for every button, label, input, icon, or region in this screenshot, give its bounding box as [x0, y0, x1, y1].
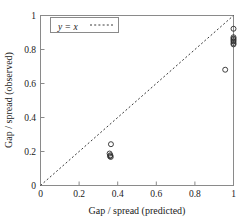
- identity-line-series: [41, 16, 234, 186]
- y-tick-label: 0.4: [24, 113, 36, 123]
- scatter-markers: [107, 26, 236, 159]
- y-tick-label: 0.6: [24, 79, 36, 89]
- x-tick-label: 0.4: [112, 189, 124, 199]
- y-tick-label: 1: [31, 11, 36, 21]
- data-point: [223, 67, 228, 72]
- y-axis-ticks: [41, 16, 45, 186]
- y-tick-label: 0.2: [24, 147, 36, 157]
- x-tick-label: 0.8: [189, 189, 201, 199]
- x-axis-ticks: [41, 182, 234, 186]
- x-tick-label: 1: [231, 189, 236, 199]
- chart-canvas: 0 0.2 0.4 0.6 0.8 1 0 0.2 0.4 0.6 0.8 1 …: [0, 0, 249, 224]
- y-tick-label: 0: [31, 181, 36, 191]
- x-tick-labels: 0 0.2 0.4 0.6 0.8 1: [38, 189, 236, 199]
- x-axis-title: Gap / spread (predicted): [89, 205, 186, 217]
- y-tick-label: 0.8: [24, 45, 36, 55]
- x-tick-label: 0.6: [150, 189, 162, 199]
- legend-label-identity: y = x: [57, 22, 78, 32]
- data-point: [108, 142, 113, 147]
- legend: y = x: [51, 18, 119, 33]
- scatter-chart-figure: 0 0.2 0.4 0.6 0.8 1 0 0.2 0.4 0.6 0.8 1 …: [0, 0, 249, 224]
- identity-line: [41, 16, 234, 186]
- y-tick-labels: 0 0.2 0.4 0.6 0.8 1: [24, 11, 36, 191]
- x-tick-label: 0: [38, 189, 43, 199]
- x-tick-label: 0.2: [73, 189, 85, 199]
- y-axis-title: Gap / spread (observed): [3, 52, 15, 148]
